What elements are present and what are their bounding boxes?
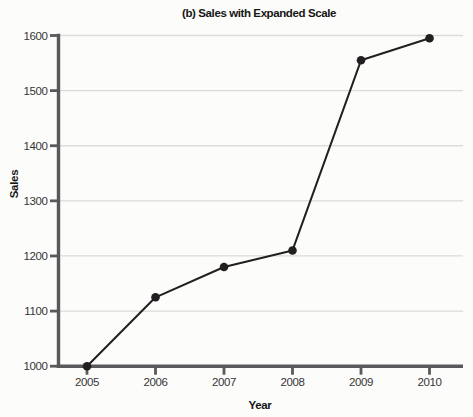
x-tick-label: 2009	[349, 376, 373, 388]
data-point	[288, 246, 297, 255]
x-tick-label: 2006	[144, 376, 168, 388]
y-tick-label: 1300	[24, 195, 48, 207]
y-tick-label: 1400	[24, 140, 48, 152]
x-tick-label: 2008	[281, 376, 305, 388]
y-tick-label: 1500	[24, 85, 48, 97]
x-tick-label: 2005	[75, 376, 99, 388]
line-plot-canvas: 1000110012001300140015001600200520062007…	[0, 0, 473, 417]
data-point	[357, 56, 366, 65]
data-point	[425, 34, 434, 43]
x-tick-label: 2010	[418, 376, 442, 388]
data-point	[83, 362, 92, 371]
sales-expanded-scale-chart: (b) Sales with Expanded Scale Sales Year…	[0, 0, 473, 417]
data-point	[220, 263, 229, 272]
y-tick-label: 1100	[24, 305, 47, 317]
series-line	[87, 38, 430, 366]
y-tick-label: 1000	[24, 360, 48, 372]
x-tick-label: 2007	[212, 376, 236, 388]
y-tick-label: 1200	[24, 250, 48, 262]
y-tick-label: 1600	[24, 30, 48, 42]
data-point	[151, 293, 160, 302]
